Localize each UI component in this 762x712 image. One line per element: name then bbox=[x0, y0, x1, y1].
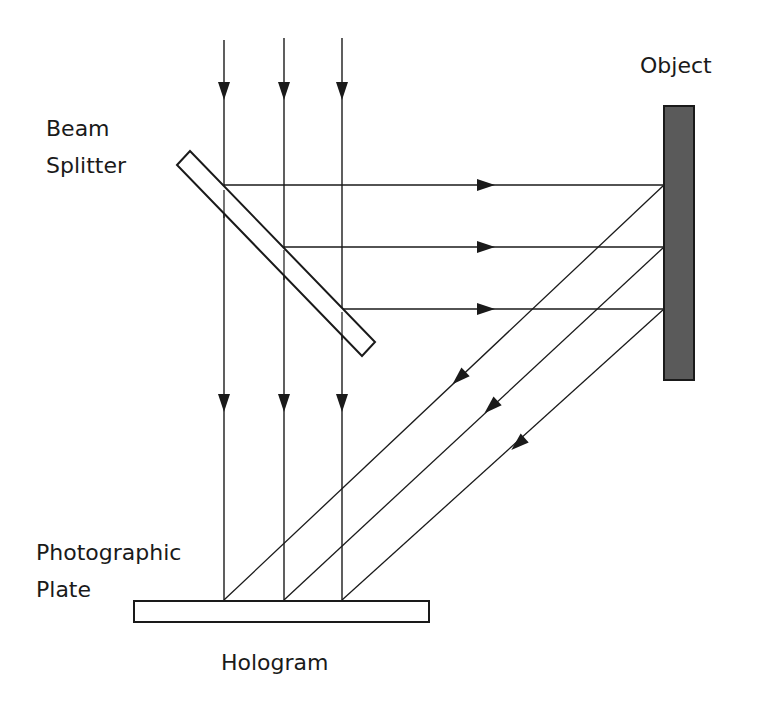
photographic-plate bbox=[134, 601, 429, 622]
down-arrow-icon bbox=[278, 394, 290, 412]
object-beam-2 bbox=[284, 247, 664, 600]
right-arrow-icon bbox=[477, 303, 495, 315]
photographic-plate-label-line1: Photographic bbox=[36, 539, 181, 567]
hologram-label: Hologram bbox=[221, 649, 329, 677]
right-arrow-icons bbox=[477, 179, 495, 315]
hologram-diagram bbox=[0, 0, 762, 712]
object-beam-3 bbox=[342, 309, 664, 600]
down-arrow-icon bbox=[336, 82, 348, 100]
object bbox=[664, 106, 694, 380]
beam-splitter-label-line1: Beam bbox=[46, 115, 110, 143]
beam-splitter-label-line2: Splitter bbox=[46, 152, 126, 180]
down-arrow-icon bbox=[218, 82, 230, 100]
right-arrow-icon bbox=[477, 179, 495, 191]
down-arrow-icon bbox=[278, 82, 290, 100]
down-arrow-icon bbox=[218, 394, 230, 412]
diagonal-arrow-icon bbox=[507, 434, 528, 455]
diagonal-arrow-icons bbox=[448, 367, 528, 454]
right-arrow-icon bbox=[477, 241, 495, 253]
down-arrow-icon bbox=[336, 394, 348, 412]
beam-splitter bbox=[177, 151, 375, 356]
photographic-plate-label-line2: Plate bbox=[36, 576, 91, 604]
object-label: Object bbox=[640, 52, 712, 80]
vertical-beams bbox=[224, 38, 342, 600]
